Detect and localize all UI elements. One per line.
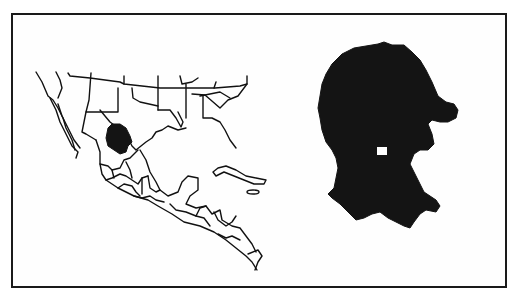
state-silhouette [318, 42, 458, 228]
overview-map [36, 72, 266, 270]
highlighted-state [106, 124, 132, 154]
jamaica-outline [247, 190, 259, 194]
location-marker [377, 147, 387, 155]
us-northern-edge [36, 72, 75, 150]
map-canvas [0, 0, 519, 298]
cuba-outline [213, 166, 266, 184]
detail-map [318, 42, 458, 228]
